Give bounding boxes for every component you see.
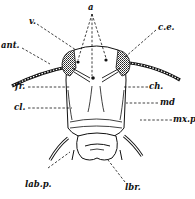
label-labial-palp: lab.p. — [25, 180, 52, 189]
mandible-left — [72, 150, 74, 160]
ocellus-right — [104, 58, 107, 61]
insect-head-diagram: a v. c.e. ant. fr. ch. cl. md mx.p. lab.… — [0, 0, 195, 199]
label-cheek: ch. — [149, 82, 163, 91]
label-antenna: ant. — [1, 41, 20, 50]
label-maxillary-palp: mx.p. — [173, 115, 195, 124]
labial-palp — [50, 138, 68, 160]
ocellus-left — [76, 60, 79, 63]
maxillary-palp — [124, 136, 142, 156]
ocellus-median — [91, 76, 95, 80]
label-clypeus: cl. — [14, 103, 25, 112]
label-compound-eye: c.e. — [158, 23, 175, 32]
mandible-right — [120, 150, 122, 160]
labrum — [77, 133, 118, 160]
label-frons: fr. — [15, 82, 25, 91]
label-labrum: lbr. — [125, 183, 141, 192]
label-ocelli: a — [88, 3, 94, 12]
label-mandible: md — [160, 98, 175, 107]
label-vertex: v. — [29, 17, 36, 26]
